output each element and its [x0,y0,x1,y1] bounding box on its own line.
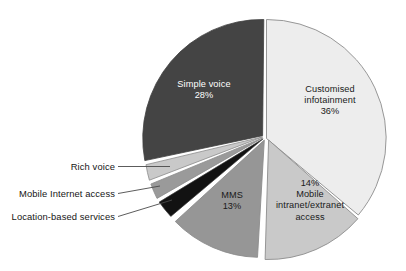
slice-label-line: Mobile [258,189,362,200]
slice-label-line: Customised [282,84,378,95]
slice-label-value: 14% [258,178,362,189]
slice-label-value: 13% [201,201,263,212]
slice-label-line: infotainment [282,95,378,106]
callout-label-rich-voice: Rich voice [2,161,115,172]
callout-label-mobile-internet-access: Mobile Internet access [2,188,115,199]
slice-label-line: intranet/extranet [258,200,362,211]
pie-chart-graphic [0,0,406,271]
slice-label-line: access [258,212,362,223]
pie-chart: Customised infotainment 36% Simple voice… [0,0,406,271]
slice-label-mobile-intranet-extranet-access: 14% Mobile intranet/extranet access [258,178,362,223]
slice-label-customised-infotainment: Customised infotainment 36% [282,84,378,118]
slice-label-simple-voice: Simple voice 28% [155,79,253,101]
slice-label-line: MMS [201,190,263,201]
callout-label-location-based-services: Location-based services [2,211,115,222]
slice-label-mms: MMS 13% [201,190,263,212]
slice-label-value: 36% [282,106,378,117]
slice-label-value: 28% [155,90,253,101]
slice-label-line: Simple voice [155,79,253,90]
